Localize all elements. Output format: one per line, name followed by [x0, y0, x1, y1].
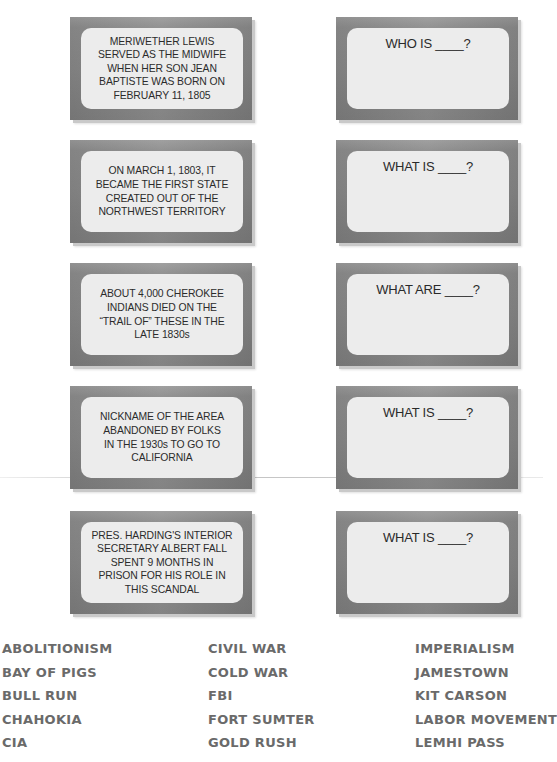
answer-prompt: WHAT IS ____?: [383, 405, 473, 420]
word-bank-item[interactable]: IMPERIALISM: [415, 637, 557, 661]
answer-panel[interactable]: WHO IS ____?: [347, 28, 509, 109]
answer-card-4[interactable]: WHAT IS ____?: [336, 386, 518, 489]
word-bank-item[interactable]: CIVIL WAR: [208, 637, 315, 661]
clue-text: PRES. HARDING'S INTERIOR SECRETARY ALBER…: [87, 529, 236, 597]
answer-card-5[interactable]: WHAT IS ____?: [336, 511, 518, 614]
word-bank-column-3: IMPERIALISM JAMESTOWN KIT CARSON LABOR M…: [415, 637, 557, 755]
clue-card-4: NICKNAME OF THE AREA ABANDONED BY FOLKS …: [70, 386, 252, 489]
answer-prompt: WHAT IS ____?: [383, 530, 473, 545]
clue-panel: ON MARCH 1, 1803, IT BECAME THE FIRST ST…: [81, 151, 243, 232]
answer-card-3[interactable]: WHAT ARE ____?: [336, 263, 518, 366]
clue-text: ABOUT 4,000 CHEROKEE INDIANS DIED ON THE…: [95, 287, 228, 341]
word-bank-item[interactable]: FORT SUMTER: [208, 708, 315, 732]
word-bank-column-2: CIVIL WAR COLD WAR FBI FORT SUMTER GOLD …: [208, 637, 315, 755]
answer-card-2[interactable]: WHAT IS ____?: [336, 140, 518, 243]
word-bank-item[interactable]: JAMESTOWN: [415, 661, 557, 685]
word-bank-item[interactable]: CIA: [2, 731, 113, 755]
answer-card-1[interactable]: WHO IS ____?: [336, 17, 518, 120]
word-bank-item[interactable]: LEMHI PASS: [415, 731, 557, 755]
answer-panel[interactable]: WHAT ARE ____?: [347, 274, 509, 355]
clue-panel: ABOUT 4,000 CHEROKEE INDIANS DIED ON THE…: [81, 274, 243, 355]
answer-prompt: WHAT ARE ____?: [376, 282, 480, 297]
answer-prompt: WHO IS ____?: [385, 36, 470, 51]
clue-card-2: ON MARCH 1, 1803, IT BECAME THE FIRST ST…: [70, 140, 252, 243]
word-bank-item[interactable]: ABOLITIONISM: [2, 637, 113, 661]
clue-panel: PRES. HARDING'S INTERIOR SECRETARY ALBER…: [81, 522, 243, 603]
word-bank-item[interactable]: BULL RUN: [2, 684, 113, 708]
clue-text: NICKNAME OF THE AREA ABANDONED BY FOLKS …: [96, 410, 228, 464]
word-bank-item[interactable]: KIT CARSON: [415, 684, 557, 708]
word-bank-item[interactable]: FBI: [208, 684, 315, 708]
clue-card-5: PRES. HARDING'S INTERIOR SECRETARY ALBER…: [70, 511, 252, 614]
word-bank-item[interactable]: LABOR MOVEMENT: [415, 708, 557, 732]
answer-panel[interactable]: WHAT IS ____?: [347, 397, 509, 478]
clue-panel: MERIWETHER LEWIS SERVED AS THE MIDWIFE W…: [81, 28, 243, 109]
word-bank-item[interactable]: GOLD RUSH: [208, 731, 315, 755]
word-bank-item[interactable]: BAY OF PIGS: [2, 661, 113, 685]
answer-panel[interactable]: WHAT IS ____?: [347, 522, 509, 603]
word-bank-item[interactable]: COLD WAR: [208, 661, 315, 685]
word-bank-column-1: ABOLITIONISM BAY OF PIGS BULL RUN CHAHOK…: [2, 637, 113, 755]
clue-card-3: ABOUT 4,000 CHEROKEE INDIANS DIED ON THE…: [70, 263, 252, 366]
clue-text: MERIWETHER LEWIS SERVED AS THE MIDWIFE W…: [94, 35, 230, 103]
word-bank-item[interactable]: CHAHOKIA: [2, 708, 113, 732]
answer-prompt: WHAT IS ____?: [383, 159, 473, 174]
clue-panel: NICKNAME OF THE AREA ABANDONED BY FOLKS …: [81, 397, 243, 478]
answer-panel[interactable]: WHAT IS ____?: [347, 151, 509, 232]
clue-card-1: MERIWETHER LEWIS SERVED AS THE MIDWIFE W…: [70, 17, 252, 120]
clue-text: ON MARCH 1, 1803, IT BECAME THE FIRST ST…: [92, 164, 233, 218]
